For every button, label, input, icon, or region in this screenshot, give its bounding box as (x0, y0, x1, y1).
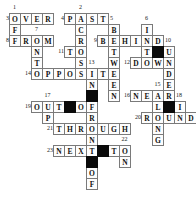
black-cell (163, 101, 175, 113)
black-cell (86, 156, 98, 168)
grid-cell: G (152, 134, 164, 146)
clue-number: 23 (42, 145, 53, 157)
clue-number: 6 (141, 13, 152, 25)
crossword-grid: OVERPASTFCBIFROMRBEHINDNTOTTUTSWDOWNOPPO… (0, 0, 196, 197)
clue-number: 15 (152, 79, 163, 91)
clue-number: 21 (42, 123, 53, 135)
clue-number: 18 (174, 90, 187, 102)
grid-cell: F (86, 178, 98, 190)
clue-number: 4 (53, 13, 64, 25)
clue-number: 2 (75, 2, 86, 14)
clue-number: 8 (0, 35, 9, 47)
clue-number: 20 (130, 112, 141, 124)
clue-number: 14 (20, 68, 31, 80)
clue-number: 5 (108, 13, 121, 25)
grid-cell: N (119, 156, 131, 168)
black-cell (86, 90, 98, 102)
clue-number: 12 (119, 57, 130, 69)
clue-number: 10 (163, 35, 176, 47)
clue-number: 17 (42, 90, 53, 102)
clue-number: 22 (119, 134, 130, 146)
black-cell (64, 101, 76, 113)
clue-number: 11 (53, 46, 64, 58)
clue-number: 7 (31, 24, 42, 36)
black-cell (152, 46, 164, 58)
clue-number: 1 (9, 2, 20, 14)
clue-number: 19 (20, 101, 31, 113)
grid-cell: D (185, 112, 196, 124)
black-cell (97, 145, 109, 157)
clue-number: 13 (86, 57, 97, 69)
clue-number: 16 (119, 90, 130, 102)
clue-number: 9 (86, 35, 97, 47)
clue-number: 3 (0, 13, 9, 25)
